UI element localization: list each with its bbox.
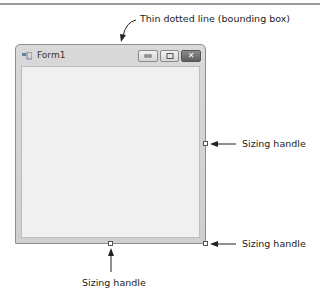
right-handle-arrowhead [210,141,218,147]
sizing-handle-corner-label: Sizing handle [242,238,306,249]
sizing-handle-right-label: Sizing handle [242,138,306,149]
annotation-arrows [0,0,320,306]
bottom-handle-arrowhead [108,248,114,256]
bounding-box-label: Thin dotted line (bounding box) [140,13,290,24]
sizing-handle-bottom-label: Sizing handle [82,277,146,288]
bounding-box-arrow [123,20,136,36]
bounding-box-arrowhead [120,34,126,42]
corner-handle-arrowhead [210,241,218,247]
